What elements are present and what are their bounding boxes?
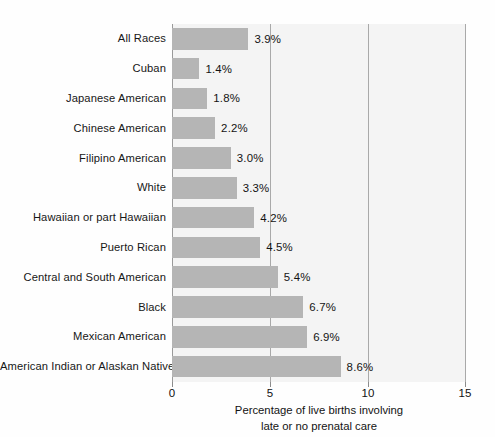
bar-container: 3.9% <box>172 28 248 50</box>
value-label: 2.2% <box>221 122 248 134</box>
bar-row: American Indian or Alaskan Native 8.6% <box>0 352 495 382</box>
bar <box>172 147 231 169</box>
bar-container: 8.6% <box>172 356 341 378</box>
x-tick-label: 15 <box>459 387 472 399</box>
x-axis-title: Percentage of live births involving late… <box>172 403 466 434</box>
bar <box>172 28 248 50</box>
bar-container: 3.3% <box>172 177 237 199</box>
bar <box>172 356 341 378</box>
bar-row: Black 6.7% <box>0 292 495 322</box>
value-label: 4.5% <box>266 241 293 253</box>
bar-row: Hawaiian or part Hawaiian 4.2% <box>0 203 495 233</box>
bar-row: Japanese American 1.8% <box>0 84 495 114</box>
x-tick-label: 10 <box>362 387 375 399</box>
value-label: 5.4% <box>284 271 311 283</box>
x-axis: 0 5 10 15 <box>172 382 466 404</box>
category-label: All Races <box>0 32 166 45</box>
category-label: Mexican American <box>0 330 166 343</box>
category-label: Filipino American <box>0 152 166 165</box>
bar-row: Chinese American 2.2% <box>0 113 495 143</box>
bar-container: 4.2% <box>172 207 254 229</box>
bar-row: All Races 3.9% <box>0 24 495 54</box>
bar-rows: All Races 3.9% Cuban 1.4% Japanese Ameri… <box>0 0 495 358</box>
category-label: Chinese American <box>0 122 166 135</box>
bar-container: 4.5% <box>172 237 260 259</box>
bar <box>172 207 254 229</box>
value-label: 8.6% <box>347 361 374 373</box>
category-label: Cuban <box>0 62 166 75</box>
bar-row: White 3.3% <box>0 173 495 203</box>
bar-chart-figure: All Races 3.9% Cuban 1.4% Japanese Ameri… <box>0 0 495 437</box>
bar-container: 5.4% <box>172 266 278 288</box>
category-label: White <box>0 181 166 194</box>
bar-container: 1.8% <box>172 88 207 110</box>
value-label: 3.9% <box>254 33 281 45</box>
x-axis-title-line-1: Percentage of live births involving <box>172 403 466 419</box>
bar <box>172 266 278 288</box>
value-label: 3.3% <box>243 182 270 194</box>
value-label: 4.2% <box>260 212 287 224</box>
bar <box>172 58 199 80</box>
bar-row: Cuban 1.4% <box>0 54 495 84</box>
value-label: 1.8% <box>213 92 240 104</box>
bar <box>172 117 215 139</box>
x-tick-label: 5 <box>267 387 273 399</box>
x-tick-label: 0 <box>169 387 175 399</box>
bar-container: 2.2% <box>172 117 215 139</box>
category-label: Puerto Rican <box>0 241 166 254</box>
x-axis-title-line-2: late or no prenatal care <box>172 419 466 435</box>
category-label: Central and South American <box>0 271 166 284</box>
bar <box>172 237 260 259</box>
bar-row: Mexican American 6.9% <box>0 322 495 352</box>
bar-container: 6.9% <box>172 326 307 348</box>
bar-container: 1.4% <box>172 58 199 80</box>
bar <box>172 88 207 110</box>
value-label: 6.9% <box>313 331 340 343</box>
value-label: 6.7% <box>309 301 336 313</box>
bar-row: Central and South American 5.4% <box>0 262 495 292</box>
bar-row: Filipino American 3.0% <box>0 143 495 173</box>
bar <box>172 296 303 318</box>
bar-row: Puerto Rican 4.5% <box>0 233 495 263</box>
value-label: 3.0% <box>237 152 264 164</box>
category-label: American Indian or Alaskan Native <box>0 360 166 373</box>
category-label: Black <box>0 301 166 314</box>
value-label: 1.4% <box>205 63 232 75</box>
bar <box>172 177 237 199</box>
bar-container: 6.7% <box>172 296 303 318</box>
bar-container: 3.0% <box>172 147 231 169</box>
category-label: Japanese American <box>0 92 166 105</box>
bar <box>172 326 307 348</box>
category-label: Hawaiian or part Hawaiian <box>0 211 166 224</box>
